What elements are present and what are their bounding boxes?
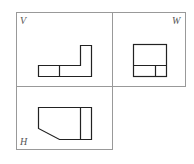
projection-diagram: V W H — [0, 0, 194, 164]
side-view — [134, 45, 167, 77]
top-view-label: H — [19, 136, 28, 147]
front-view-label: V — [20, 15, 28, 26]
top-view — [39, 108, 92, 140]
side-view-label: W — [172, 15, 182, 26]
front-view — [39, 46, 92, 77]
view-frame — [16, 12, 186, 150]
